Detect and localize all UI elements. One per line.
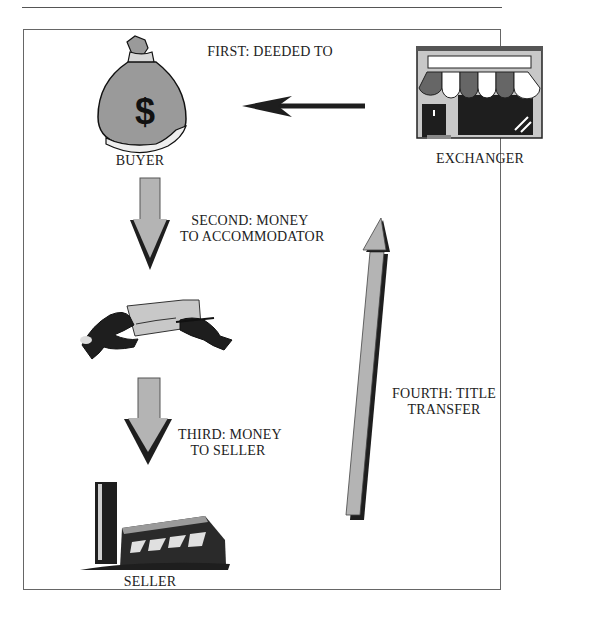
storefront-icon [416, 46, 543, 139]
step2-label-line2: TO ACCOMMODATOR [180, 229, 320, 245]
step4-label: FOURTH: TITLE TRANSFER [384, 386, 504, 418]
step2-label: SECOND: MONEY TO ACCOMMODATOR [180, 213, 320, 245]
step1-label: FIRST: DEEDED TO [200, 44, 340, 60]
step4-label-line2: TRANSFER [384, 402, 504, 418]
building-icon [80, 482, 230, 570]
step4-arrow [346, 218, 390, 520]
step3-label: THIRD: MONEY TO SELLER [178, 427, 278, 459]
step4-label-line1: FOURTH: TITLE [384, 386, 504, 402]
step1-arrow [242, 96, 365, 117]
step3-arrow [124, 378, 172, 465]
seller-label: SELLER [110, 574, 190, 590]
signing-check-icon [80, 300, 232, 359]
exchanger-label: EXCHANGER [420, 151, 540, 167]
buyer-label: BUYER [100, 153, 180, 169]
step2-arrow [130, 178, 170, 270]
svg-text:$: $ [135, 91, 155, 132]
step3-label-line1: THIRD: MONEY [178, 427, 278, 443]
money-bag-icon: $ [98, 36, 186, 153]
step1-label-line1: FIRST: DEEDED TO [207, 44, 333, 59]
step3-label-line2: TO SELLER [178, 443, 278, 459]
step2-label-line1: SECOND: MONEY [180, 213, 320, 229]
diagram-artwork: $ [0, 0, 615, 622]
